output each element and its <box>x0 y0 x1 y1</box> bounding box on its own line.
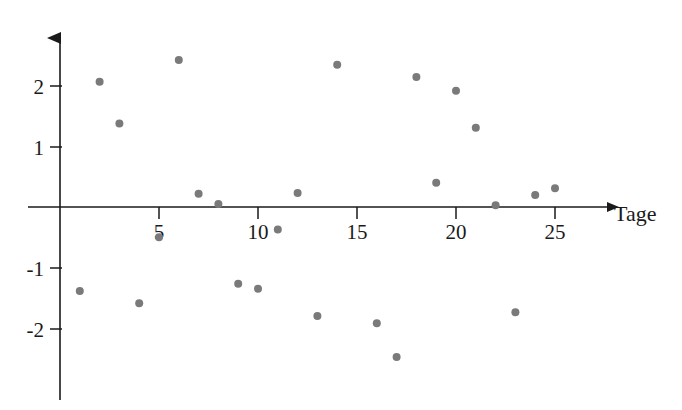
y-tick-label-1: 1 <box>34 136 45 160</box>
scatter-plot-figure: 5 10 15 20 25 2 1 -1 -2 Tage <box>0 0 682 410</box>
data-point <box>96 78 104 86</box>
x-tick-label-10: 10 <box>248 220 269 244</box>
data-point <box>393 353 401 361</box>
data-point <box>511 308 519 316</box>
data-point <box>294 189 302 197</box>
data-point <box>254 285 262 293</box>
x-tick-label-15: 15 <box>347 220 368 244</box>
data-point <box>274 225 282 233</box>
data-point <box>492 201 500 209</box>
data-point <box>214 200 222 208</box>
data-point <box>333 61 341 69</box>
data-points-layer <box>76 56 559 361</box>
x-tick-label-20: 20 <box>446 220 467 244</box>
data-point <box>472 124 480 132</box>
data-point <box>234 280 242 288</box>
data-point <box>412 73 420 81</box>
data-point <box>531 191 539 199</box>
plot-canvas: 5 10 15 20 25 2 1 -1 -2 Tage <box>0 0 682 410</box>
x-tick-label-25: 25 <box>545 220 566 244</box>
data-point <box>432 179 440 187</box>
y-tick-label-minus-2: -2 <box>27 318 45 342</box>
y-tick-label-2: 2 <box>34 75 45 99</box>
data-point <box>175 56 183 64</box>
data-point <box>551 184 559 192</box>
data-point <box>452 87 460 95</box>
data-point <box>155 233 163 241</box>
y-tick-label-minus-1: -1 <box>27 257 45 281</box>
data-point <box>373 319 381 327</box>
data-point <box>195 190 203 198</box>
data-point <box>313 312 321 320</box>
x-axis-title: Tage <box>614 201 656 226</box>
data-point <box>76 287 84 295</box>
data-point <box>115 120 123 128</box>
data-point <box>135 299 143 307</box>
